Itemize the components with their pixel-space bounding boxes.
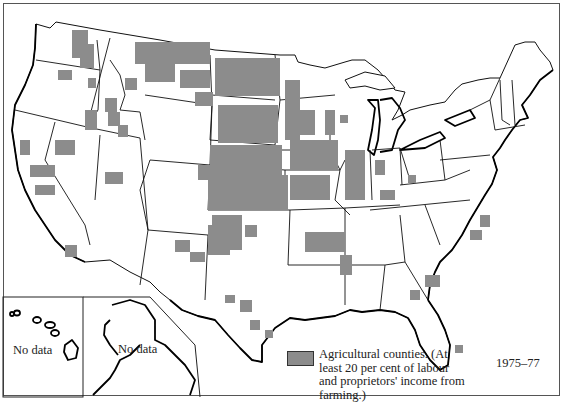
alaska-no-data-label: No data — [118, 342, 157, 356]
period-label: 1975–77 — [496, 356, 540, 371]
legend-swatch-agricultural — [287, 351, 314, 366]
legend-label: Agricultural counties. (At least 20 per … — [319, 348, 469, 402]
hawaii-no-data-label: No data — [13, 343, 52, 357]
